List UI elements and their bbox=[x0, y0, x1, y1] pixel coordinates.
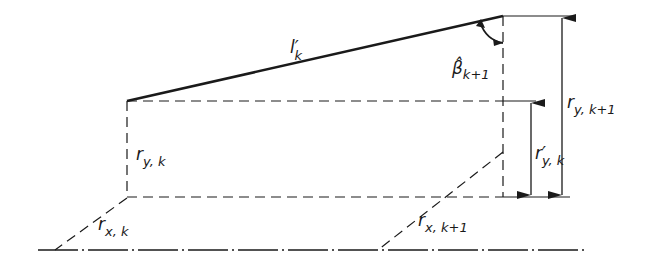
segment-l-prime-k bbox=[127, 16, 503, 101]
geometry-diagram: l′k β̂k+1 ry, k r′y, k ry, k+1 rx, k rx,… bbox=[0, 0, 652, 267]
angle-arrow-end-icon bbox=[493, 39, 503, 46]
label-r-x-k: rx, k bbox=[98, 214, 129, 239]
label-l-prime-k: l′k bbox=[290, 37, 303, 63]
label-r-y-k-prime: r′y, k bbox=[535, 143, 565, 168]
label-r-y-k1: ry, k+1 bbox=[567, 92, 616, 117]
label-beta-k1: β̂k+1 bbox=[451, 56, 490, 82]
diagonal-r-x-k1 bbox=[378, 152, 503, 250]
label-r-y-k: ry, k bbox=[136, 144, 166, 169]
label-r-x-k1: rx, k+1 bbox=[418, 210, 468, 235]
